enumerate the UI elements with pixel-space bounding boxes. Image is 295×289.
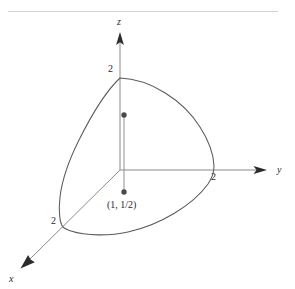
x-axis-line (30, 170, 120, 259)
surface-boundary-curve (59, 78, 214, 235)
figure-container: z y x 2 2 2 (1, 1/2) (0, 0, 295, 289)
lower-point-marker (121, 189, 126, 194)
x-axis-arrowhead (21, 255, 35, 268)
coordinate-diagram-canvas (0, 0, 295, 289)
upper-point-marker (121, 112, 126, 117)
